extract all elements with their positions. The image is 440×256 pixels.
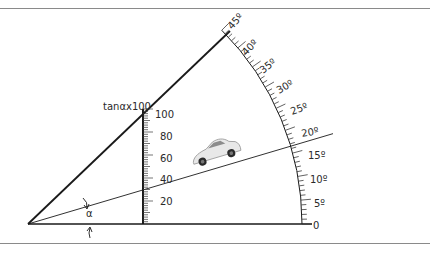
arc-tick <box>272 97 276 99</box>
slope-diagram: tanαx100 α 100 80 60 40 20 0 5º 10º 15º … <box>0 0 440 256</box>
arc-tick <box>298 175 308 177</box>
arc-tick <box>289 138 294 140</box>
arc-tick <box>297 171 302 172</box>
arc-tick <box>250 60 254 63</box>
angle-tick-25: 25º <box>289 100 309 116</box>
tan-tick-80: 80 <box>160 131 173 142</box>
tan-tick-40: 40 <box>160 174 173 185</box>
arc-tick <box>300 190 305 191</box>
arc-tick <box>293 150 303 153</box>
arc-tick <box>265 82 274 87</box>
angle-tick-5: 5º <box>314 198 325 209</box>
arc-tick <box>295 161 300 162</box>
tan-tick-20: 20 <box>160 196 173 207</box>
arc-tick <box>284 124 289 126</box>
arc-tick <box>300 195 305 196</box>
arc-tick <box>290 142 295 143</box>
arc-tick <box>274 102 278 104</box>
diagram-geometry <box>28 23 333 238</box>
arc-tick <box>260 76 264 79</box>
angle-tick-30: 30º <box>275 77 296 95</box>
arc-tick <box>296 166 301 167</box>
arc-tick <box>299 180 304 181</box>
arc-tick <box>263 80 267 83</box>
arc-tick <box>282 119 287 121</box>
arc-tick <box>228 34 232 37</box>
arc-tick <box>301 199 311 200</box>
arc-tick <box>280 115 285 117</box>
angle-tick-45: 45º <box>225 11 245 32</box>
arc-tick <box>268 89 272 91</box>
alpha-label: α <box>86 208 93 219</box>
angle-tick-15: 15º <box>308 150 326 161</box>
arc-tick <box>235 41 239 44</box>
arc-tick <box>299 185 304 186</box>
angle-tick-20: 20º <box>300 125 319 139</box>
arc-tick <box>285 127 294 130</box>
arc-tick <box>270 93 274 95</box>
arc-tick <box>232 37 236 40</box>
angle-tick-0: 0 <box>313 220 319 231</box>
arc-tick <box>276 104 285 108</box>
arc-tick <box>287 133 292 135</box>
arc-tick <box>278 111 283 113</box>
incline-line <box>28 134 333 224</box>
tan-scale-label: tanαx100 <box>103 101 151 112</box>
angle-arc <box>222 30 302 224</box>
tan-tick-100: 100 <box>155 109 174 120</box>
hypotenuse-45-line <box>28 31 230 224</box>
tan-tick-60: 60 <box>160 153 173 164</box>
arc-tick <box>294 157 299 158</box>
angle-tick-10: 10º <box>310 174 328 185</box>
arc-tick <box>291 147 296 148</box>
